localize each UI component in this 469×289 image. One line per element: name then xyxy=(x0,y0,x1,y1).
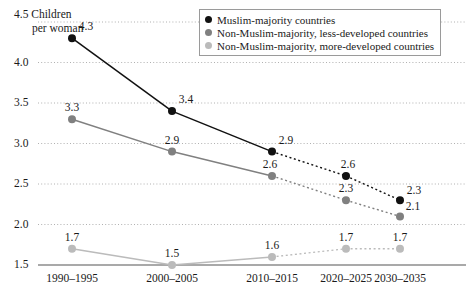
data-label: 2.3 xyxy=(339,182,353,194)
data-label: 1.7 xyxy=(393,231,407,243)
data-label: 3.4 xyxy=(179,93,193,105)
x-axis-tick-2030-2035: 2030–2035 xyxy=(374,272,426,284)
y-axis-caption-line-2: per woman xyxy=(14,22,83,36)
legend-marker-icon xyxy=(205,16,212,23)
data-label: 3.3 xyxy=(65,101,79,113)
data-label: 2.3 xyxy=(407,184,421,196)
data-label: 1.6 xyxy=(265,239,279,251)
data-label: 2.1 xyxy=(406,200,420,212)
y-axis-tick-1-5: 1.5 xyxy=(14,258,28,270)
x-axis-tick-2020-2025: 2020–2025 xyxy=(320,272,372,284)
legend-marker-icon xyxy=(205,29,212,36)
legend-item-1: Muslim-majority countries xyxy=(205,13,434,26)
x-axis-tick-2010-2015: 2010–2015 xyxy=(246,272,298,284)
y-axis-tick-4-0: 4.0 xyxy=(14,56,28,68)
y-axis-caption: 4.5 Children per woman xyxy=(14,8,83,35)
fertility-line-chart: 4.5 Children per woman 4.03.53.02.52.01.… xyxy=(0,0,469,289)
y-axis-caption-line-1: 4.5 Children xyxy=(14,8,72,20)
data-label: 4.3 xyxy=(79,20,93,32)
data-label: 2.9 xyxy=(279,134,293,146)
data-label: 2.6 xyxy=(341,158,355,170)
x-axis-tick-1990-1995: 1990–1995 xyxy=(46,272,98,284)
data-label: 2.6 xyxy=(263,158,277,170)
chart-legend: Muslim-majority countriesNon-Muslim-majo… xyxy=(199,9,441,56)
y-axis-tick-3-5: 3.5 xyxy=(14,96,28,108)
data-label: 2.9 xyxy=(165,134,179,146)
legend-item-label: Non-Muslim-majority, more-developed coun… xyxy=(217,40,434,52)
legend-item-3: Non-Muslim-majority, more-developed coun… xyxy=(205,39,434,52)
data-label: 1.7 xyxy=(339,231,353,243)
legend-item-2: Non-Muslim-majority, less-developed coun… xyxy=(205,26,434,39)
data-label: 1.7 xyxy=(65,231,79,243)
y-axis-tick-3-0: 3.0 xyxy=(14,137,28,149)
legend-item-label: Non-Muslim-majority, less-developed coun… xyxy=(217,27,428,39)
data-label: 1.5 xyxy=(165,247,179,259)
x-axis-tick-2000-2005: 2000–2005 xyxy=(146,272,198,284)
legend-item-label: Muslim-majority countries xyxy=(217,14,335,26)
y-axis-tick-2-5: 2.5 xyxy=(14,177,28,189)
legend-marker-icon xyxy=(205,42,212,49)
y-axis-tick-2-0: 2.0 xyxy=(14,218,28,230)
